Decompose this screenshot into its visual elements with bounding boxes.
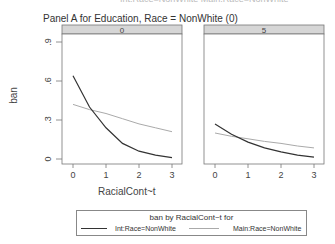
legend-title: ban by RacialCont~t for [77,213,306,222]
y-axis: .9 .6 .3 0 [43,38,62,161]
legend-swatch [81,228,107,229]
chart-plot-area: 0 5 .9 .6 .3 0 0 1 2 3 0 [0,0,335,200]
panel-right: 5 [204,25,324,164]
x-tick-label: 1 [103,170,108,180]
x-tick-label: 2 [278,170,283,180]
panel-frame [204,34,324,164]
legend-item-main: Main:Race=NonWhite [189,225,301,232]
x-tick-label: 0 [70,170,75,180]
panel-strip-label: 0 [120,26,125,35]
legend-item-int: Int:Race=NonWhite [81,225,176,232]
panel-frame [62,34,182,164]
x-tick-label: 3 [169,170,174,180]
x-tick-label: 1 [245,170,250,180]
panel-left: 0 [62,25,182,164]
legend: ban by RacialCont~t for Int:Race=NonWhit… [76,210,307,236]
y-tick-label: 0 [43,156,53,161]
x-tick-label: 3 [311,170,316,180]
panel-strip-label: 5 [262,26,267,35]
y-tick-label: .9 [43,38,53,46]
x-tick-label: 0 [212,170,217,180]
x-axis-right: 0 1 2 3 [212,164,316,180]
x-tick-label: 2 [136,170,141,180]
legend-label: Main:Race=NonWhite [233,225,301,232]
legend-label: Int:Race=NonWhite [115,225,176,232]
y-tick-label: .6 [43,77,53,85]
y-tick-label: .3 [43,116,53,124]
legend-swatch [189,228,219,229]
x-axis-left: 0 1 2 3 [70,164,174,180]
